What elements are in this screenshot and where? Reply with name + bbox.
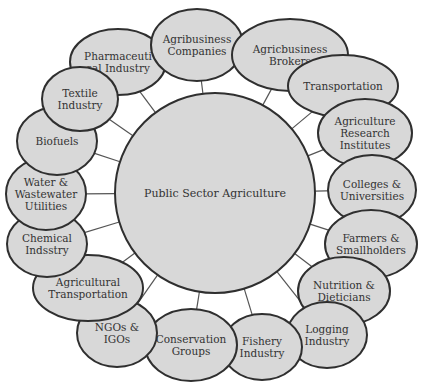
node-label: Research xyxy=(340,127,390,139)
node-label: Nutrition & xyxy=(313,279,375,291)
node-label: Agricultural xyxy=(55,276,121,288)
stakeholder-hub-diagram: Pharmaceutical IndustryAgribusinessCompa… xyxy=(0,0,426,385)
node-label: IGOs xyxy=(104,333,131,345)
node-label: Colleges & xyxy=(343,178,401,190)
node-conservation: ConservationGroups xyxy=(145,309,237,381)
node-label: Transportation xyxy=(303,80,383,92)
node-label: Agriculture xyxy=(334,115,396,127)
node-label: Wastewater xyxy=(15,188,79,200)
node-label: Universities xyxy=(340,190,404,202)
hub-node: Public Sector Agriculture xyxy=(115,93,315,293)
node-label: Logging xyxy=(305,323,349,335)
node-label: Pharmaceuti xyxy=(84,50,152,62)
node-label: Institutes xyxy=(340,139,391,151)
node-label: Industry xyxy=(58,99,103,111)
node-label: Industry xyxy=(240,347,285,359)
node-label: Utilities xyxy=(25,200,67,212)
node-label: Companies xyxy=(167,45,226,57)
node-label: Groups xyxy=(172,345,211,357)
node-label: Chemical xyxy=(22,232,72,244)
node-label: Indsstry xyxy=(25,244,69,256)
node-label: Industry xyxy=(305,335,350,347)
node-textile: TextileIndustry xyxy=(42,67,118,131)
node-label: Agribusiness xyxy=(162,33,232,45)
spoke-agribusiness-companies xyxy=(201,81,203,94)
node-label: Farmers & xyxy=(342,232,399,244)
hub-label: Public Sector Agriculture xyxy=(144,187,286,200)
node-agribusiness-companies: AgribusinessCompanies xyxy=(151,9,243,81)
node-label: Biofuels xyxy=(35,135,78,147)
node-label: Fishery xyxy=(242,335,282,347)
spoke-textile xyxy=(106,117,133,136)
spoke-fishery xyxy=(244,289,252,316)
node-label: Textile xyxy=(62,87,97,99)
node-label: Smallholders xyxy=(336,244,406,256)
node-label: Transportation xyxy=(48,288,128,300)
spoke-conservation xyxy=(197,292,200,310)
node-label: Water & xyxy=(24,176,68,188)
node-label: Conservation xyxy=(156,333,227,345)
node-label: NGOs & xyxy=(95,321,139,333)
node-label: Agricbusiness xyxy=(252,43,328,55)
